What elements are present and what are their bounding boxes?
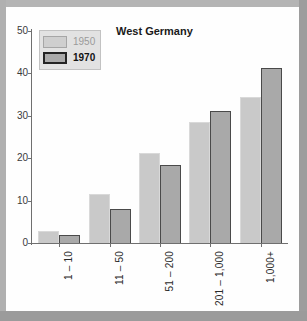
x-tick-label-1: 1 – 10 <box>63 251 74 280</box>
x-tick-label-5: 1,000+ <box>265 251 276 283</box>
chart-title: West Germany <box>116 25 193 37</box>
x-tick-mark <box>261 243 262 247</box>
frame-edge-right <box>299 0 307 321</box>
x-tick-mark <box>160 243 161 247</box>
chart-panel: West Germany 1950 1970 01020304050 1 – 1… <box>6 7 299 311</box>
frame-edge-bottom <box>0 311 307 321</box>
legend-label-1950: 1950 <box>73 37 95 47</box>
y-tick-label: 50 <box>17 26 28 36</box>
y-tick-40: 40 <box>6 68 28 78</box>
y-tick-10: 10 <box>6 196 28 206</box>
bar-1950-5 <box>240 97 261 243</box>
y-tick-mark <box>28 31 32 32</box>
bar-1970-2 <box>110 209 131 243</box>
bar-1970-3 <box>160 165 181 243</box>
bar-1970-1 <box>59 235 80 243</box>
y-tick-mark <box>28 201 32 202</box>
figure-frame: West Germany 1950 1970 01020304050 1 – 1… <box>0 0 307 321</box>
y-tick-20: 20 <box>6 153 28 163</box>
legend-swatch-1950 <box>43 36 67 48</box>
y-tick-label: 20 <box>17 153 28 163</box>
y-tick-label: 40 <box>17 68 28 78</box>
bar-1950-2 <box>89 194 110 243</box>
x-tick-mark <box>110 243 111 247</box>
x-tick-mark <box>59 243 60 247</box>
y-tick-label: 30 <box>17 111 28 121</box>
x-tick-label-4: 201 – 1,000 <box>214 251 225 306</box>
y-tick-mark <box>28 73 32 74</box>
legend-item-1970[interactable]: 1970 <box>43 50 95 66</box>
x-tick-label-3: 51 – 200 <box>164 251 175 292</box>
bar-1950-3 <box>139 153 160 243</box>
frame-edge-top <box>0 0 307 7</box>
bar-1950-1 <box>38 231 59 243</box>
legend-swatch-1970 <box>43 52 67 64</box>
y-tick-label: 10 <box>17 196 28 206</box>
y-tick-30: 30 <box>6 111 28 121</box>
x-tick-mark <box>210 243 211 247</box>
bar-1970-4 <box>210 111 231 243</box>
x-tick-label-2: 11 – 50 <box>114 251 125 285</box>
bar-1950-4 <box>189 122 210 243</box>
chart-legend: 1950 1970 <box>39 30 101 70</box>
legend-label-1970: 1970 <box>73 53 95 63</box>
bar-1970-5 <box>261 68 282 243</box>
y-tick-mark <box>28 243 32 244</box>
legend-item-1950[interactable]: 1950 <box>43 34 95 50</box>
y-tick-50: 50 <box>6 26 28 36</box>
y-axis-line <box>31 29 32 245</box>
y-tick-mark <box>28 116 32 117</box>
y-tick-mark <box>28 158 32 159</box>
y-tick-0: 0 <box>6 238 28 248</box>
